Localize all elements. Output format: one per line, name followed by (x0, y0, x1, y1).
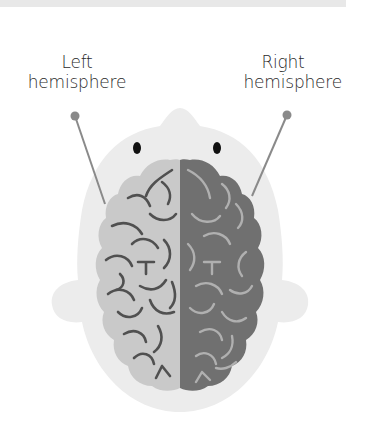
right-pointer-dot-icon (283, 111, 292, 120)
left-pointer-dot-icon (71, 112, 80, 121)
right-eye-icon (213, 142, 221, 154)
right-pointer (252, 111, 292, 197)
brain-diagram (0, 0, 366, 426)
left-eye-icon (133, 142, 141, 154)
